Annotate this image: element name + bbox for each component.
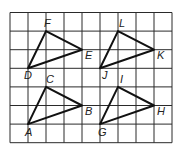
vertex-label-a: A <box>24 126 32 138</box>
vertex-label-h: H <box>157 105 165 117</box>
vertex-label-d: D <box>24 69 32 81</box>
vertex-label-j: J <box>101 69 108 81</box>
vertex-label-f: F <box>44 17 52 29</box>
vertex-label-b: B <box>85 105 92 117</box>
vertex-label-l: L <box>119 17 125 29</box>
vertex-label-i: I <box>120 73 123 85</box>
grid <box>10 13 172 143</box>
vertex-label-c: C <box>46 73 54 85</box>
triangle-grid-diagram: DEFJKLABCGHI <box>0 0 180 154</box>
vertex-label-g: G <box>98 126 107 138</box>
vertex-label-k: K <box>157 49 165 61</box>
vertex-label-e: E <box>85 49 93 61</box>
vertex-labels: DEFJKLABCGHI <box>24 17 165 138</box>
